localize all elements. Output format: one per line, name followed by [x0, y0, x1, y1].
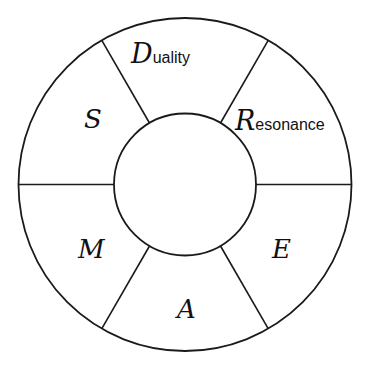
svg-text:A: A [175, 294, 196, 324]
segment-lower-right-label: E [271, 234, 291, 264]
segment-lower-left-initial: M [77, 234, 106, 264]
svg-text:E: E [271, 234, 291, 264]
segment-upper-right-initial: R [234, 105, 255, 136]
segment-lower-left-label: M [77, 234, 106, 264]
segment-upper-left-initial: S [84, 104, 102, 134]
segment-bottom-label: A [175, 294, 196, 324]
segmented-ring-diagram: Duality Resonance E A M S [0, 0, 367, 371]
svg-text:M: M [77, 234, 106, 264]
svg-text:S: S [84, 104, 102, 134]
segment-upper-left-label: S [84, 104, 102, 134]
segment-top-initial: D [130, 38, 153, 69]
segment-upper-right-rest: esonance [255, 116, 324, 133]
segment-bottom-initial: A [175, 294, 196, 324]
segment-lower-right-initial: E [271, 234, 291, 264]
segment-top-rest: uality [153, 49, 190, 66]
